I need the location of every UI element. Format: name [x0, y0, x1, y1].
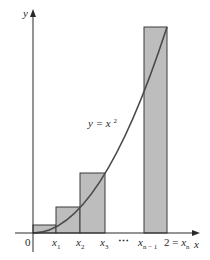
tick-label-x3: x3	[99, 236, 109, 251]
tick-label-x2: x2	[75, 236, 85, 251]
curve-label-prefix: y = x	[87, 117, 111, 129]
y-axis-arrow-icon	[30, 9, 36, 17]
curve-label-exponent: 2	[113, 117, 117, 125]
tick-labels: x1 x2 x3 ⋯ xn − 1 2 = xn	[51, 235, 190, 251]
tick-label-ellipsis: ⋯	[118, 235, 129, 247]
tick-label-xn: 2 = xn	[164, 236, 190, 251]
tick-label-xn-minus-1: xn − 1	[137, 236, 158, 251]
rectangles	[33, 27, 167, 233]
x-axis-arrow-icon	[192, 230, 200, 236]
origin-label: 0	[25, 236, 31, 248]
tick-label-x1: x1	[51, 236, 61, 251]
riemann-sum-figure: y x 0 y = x 2 x1 x2 x3 ⋯ xn − 1 2 = xn	[0, 0, 210, 260]
curve-label: y = x 2	[87, 117, 117, 129]
x-axis-label: x	[193, 238, 199, 250]
y-axis-label: y	[22, 7, 28, 19]
rectangle-n	[144, 27, 167, 233]
axes	[15, 9, 200, 252]
